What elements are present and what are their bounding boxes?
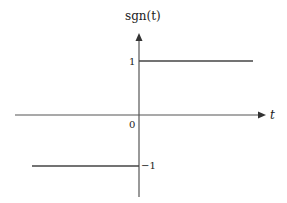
y-axis-label: sgn(t) (125, 9, 161, 23)
y-axis-arrow-icon (136, 33, 143, 41)
x-axis-arrow-icon (258, 112, 266, 119)
signum-plot: sgn(t) t 0 1 −1 (0, 0, 287, 203)
tick-label-1: 1 (129, 56, 135, 67)
tick-label-neg1: −1 (141, 160, 156, 171)
x-axis-label: t (270, 108, 275, 122)
origin-label: 0 (129, 119, 135, 130)
